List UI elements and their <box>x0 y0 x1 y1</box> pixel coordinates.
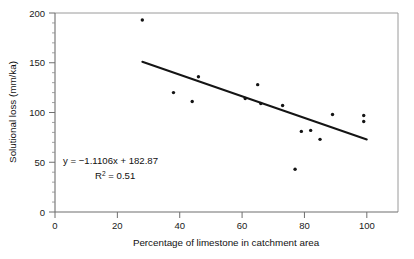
scatter-plot-svg: 0 50 100 150 200 0 20 40 60 80 100 Perce… <box>0 0 414 259</box>
y-axis-title: Solutional loss (mm/ka) <box>7 61 18 163</box>
data-point <box>197 75 200 78</box>
x-axis-title: Percentage of limestone in catchment are… <box>133 237 320 248</box>
y-tick-label-0: 0 <box>40 207 45 218</box>
y-tick-label-100: 100 <box>29 107 45 118</box>
y-tick-label-50: 50 <box>34 157 45 168</box>
x-tick-label-100: 100 <box>359 220 375 231</box>
x-tick-label-40: 40 <box>174 220 185 231</box>
data-point <box>256 83 259 86</box>
x-tick-label-20: 20 <box>112 220 123 231</box>
data-point <box>362 120 365 123</box>
data-point <box>300 130 303 133</box>
x-tick-label-80: 80 <box>299 220 310 231</box>
r-squared-value: = 0.51 <box>106 170 136 181</box>
chart-background <box>0 0 414 259</box>
y-tick-label-200: 200 <box>29 8 45 19</box>
data-point <box>362 114 365 117</box>
data-point <box>259 102 262 105</box>
x-tick-label-60: 60 <box>237 220 248 231</box>
r-squared-letter: R <box>95 170 102 181</box>
data-point <box>331 113 334 116</box>
data-point <box>309 129 312 132</box>
chart-figure: 0 50 100 150 200 0 20 40 60 80 100 Perce… <box>0 0 414 259</box>
r-squared-text: R2 = 0.51 <box>95 170 135 182</box>
data-point <box>293 168 296 171</box>
data-point <box>172 91 175 94</box>
data-point <box>191 100 194 103</box>
y-tick-label-150: 150 <box>29 57 45 68</box>
data-point <box>244 97 247 100</box>
data-point <box>318 138 321 141</box>
data-point <box>281 104 284 107</box>
regression-equation-text: y = −1.1106x + 182.87 <box>63 155 158 166</box>
x-tick-label-0: 0 <box>52 220 57 231</box>
data-point <box>141 18 144 21</box>
